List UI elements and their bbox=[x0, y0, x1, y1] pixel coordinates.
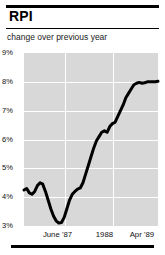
x-axis-tick-label: June '87 bbox=[43, 230, 72, 239]
chart-figure: RPI change over previous year 9%8%7%6%5%… bbox=[0, 0, 165, 255]
x-axis-tick-label: 1988 bbox=[96, 230, 113, 239]
bottom-rule bbox=[11, 245, 154, 248]
title-divider-rule bbox=[6, 28, 159, 29]
y-axis-tick-label: 9% bbox=[2, 49, 13, 57]
y-axis-tick-label: 8% bbox=[2, 78, 13, 86]
y-axis-tick-label: 7% bbox=[2, 107, 13, 115]
rpi-line-series bbox=[24, 53, 158, 226]
y-axis-tick-label: 5% bbox=[2, 164, 13, 172]
plot-area bbox=[24, 53, 158, 226]
chart-title: RPI bbox=[9, 8, 33, 25]
y-axis-tick-label: 6% bbox=[2, 136, 13, 144]
x-axis-tick-label: Apr '89 bbox=[130, 230, 154, 239]
y-axis-tick-label: 3% bbox=[2, 222, 13, 230]
y-axis-tick-label: 4% bbox=[2, 193, 13, 201]
chart-subtitle: change over previous year bbox=[7, 32, 107, 43]
